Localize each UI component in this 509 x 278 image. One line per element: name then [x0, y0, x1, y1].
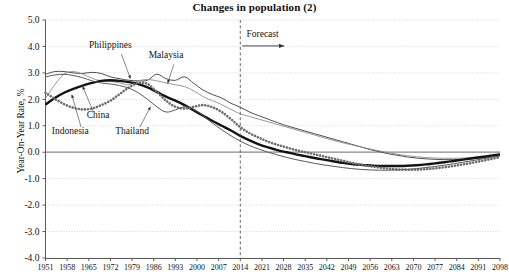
y-tick-label: 3.0	[28, 68, 40, 78]
y-tick-label: -1.0	[24, 174, 39, 184]
y-tick-label: 5.0	[28, 15, 40, 25]
x-tick-label: 2035	[297, 263, 313, 272]
x-tick-label: 2098	[492, 263, 508, 272]
series-label-china: China	[87, 110, 110, 120]
x-tick-label: 1965	[81, 263, 97, 272]
x-tick-label: 2014	[232, 263, 248, 272]
y-tick-label: 1.0	[28, 121, 40, 131]
x-tick-label: 2028	[276, 263, 292, 272]
callout-leader-philippines	[121, 54, 130, 79]
x-tick-label: 2007	[211, 263, 227, 272]
callout-leader-thailand	[140, 107, 151, 127]
series-label-philippines: Philippines	[89, 40, 132, 50]
y-tick-labels: 5.04.03.02.01.00.0-1.0-2.0-3.0-4.0	[24, 15, 39, 263]
y-tick-label: 4.0	[28, 42, 40, 52]
x-tick-label: 2084	[449, 263, 465, 272]
x-tick-label: 2000	[189, 263, 205, 272]
line-chart-plot: 5.04.03.02.01.00.0-1.0-2.0-3.0-4.0 19511…	[0, 0, 509, 278]
x-tick-label: 1979	[124, 263, 140, 272]
series-lines	[46, 71, 501, 170]
x-tick-label: 2021	[254, 263, 270, 272]
y-tick-label: -2.0	[24, 200, 39, 210]
x-tick-label: 1972	[102, 263, 118, 272]
y-tick-label: -3.0	[24, 227, 39, 237]
x-tick-label: 2049	[341, 263, 357, 272]
x-tick-label: 1951	[38, 263, 54, 272]
chart-figure: Changes in population (2) Year-On-Year R…	[0, 0, 509, 278]
x-tick-label: 1958	[59, 263, 75, 272]
x-tick-labels: 1951195819651972197919861993200020072014…	[38, 263, 509, 272]
x-tick-label: 2063	[384, 263, 400, 272]
axes	[46, 20, 501, 259]
series-label-indonesia: Indonesia	[52, 126, 90, 136]
y-tick-label: 0.0	[28, 147, 40, 157]
y-tick-label: 2.0	[28, 95, 40, 105]
x-tick-label: 1993	[167, 263, 183, 272]
x-tick-label: 2077	[427, 263, 443, 272]
series-line-thailand	[46, 74, 501, 170]
x-tick-label: 2070	[405, 263, 421, 272]
x-tick-label: 1986	[146, 263, 162, 272]
x-tick-label: 2056	[362, 263, 378, 272]
gridlines	[46, 20, 501, 258]
x-tick-label: 2042	[319, 263, 335, 272]
x-tick-label: 2091	[470, 263, 486, 272]
y-tick-label: -4.0	[24, 253, 39, 263]
series-label-malaysia: Malaysia	[149, 50, 185, 60]
forecast-label: Forecast	[246, 29, 279, 39]
series-label-thailand: Thailand	[115, 126, 149, 136]
